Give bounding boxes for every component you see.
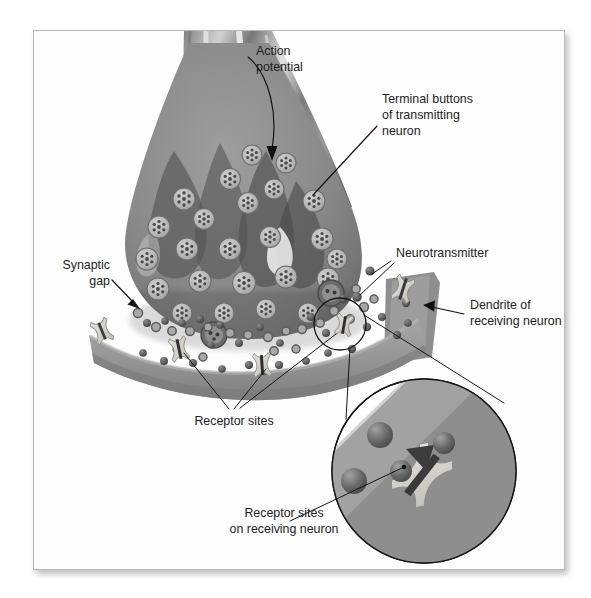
neurotransmitter <box>196 315 204 323</box>
label-inset-receptor-line2: on receiving neuron <box>230 522 339 536</box>
neurotransmitter <box>264 333 273 342</box>
vesicle <box>256 299 276 319</box>
vesicle <box>136 248 158 270</box>
neurotransmitter <box>168 327 176 335</box>
neurotransmitter <box>244 331 252 339</box>
neurotransmitter <box>292 345 300 353</box>
neurotransmitter <box>298 325 307 334</box>
neurotransmitter <box>270 347 278 355</box>
vesicle <box>298 303 318 323</box>
neurotransmitter-labeled <box>365 266 374 275</box>
vesicle <box>276 153 296 173</box>
synaptic-gap-arrowhead <box>128 299 141 309</box>
vesicle <box>214 303 234 323</box>
vesicle <box>148 216 170 238</box>
neurotransmitter <box>316 319 324 327</box>
neurotransmitter <box>370 295 378 303</box>
neurotransmitter <box>245 361 253 369</box>
neurotransmitter <box>275 361 283 369</box>
neurotransmitter <box>352 285 360 293</box>
label-inset-receptor-line1: Receptor sites <box>244 506 323 520</box>
neurotransmitter <box>216 321 224 329</box>
neurotransmitter <box>226 329 235 338</box>
neurotransmitter-labeled <box>352 292 362 302</box>
vesicle <box>233 272 256 295</box>
transmitting-neuron <box>114 31 374 351</box>
vesicle <box>238 193 259 214</box>
label-action-potential-line2: potential <box>256 60 303 74</box>
synapse-illustration: Action potential Terminal buttons of tra… <box>34 31 562 567</box>
neurotransmitter <box>133 308 142 317</box>
neurotransmitter <box>143 319 151 327</box>
neurotransmitter <box>363 323 371 331</box>
neurotransmitter <box>152 323 161 332</box>
inset-neurotransmitter-bound <box>390 460 412 482</box>
neurotransmitter <box>276 339 284 347</box>
label-dendrite-line1: Dendrite of <box>470 298 531 312</box>
vesicle <box>194 209 215 230</box>
neurotransmitter <box>160 357 168 365</box>
vesicle <box>220 169 241 190</box>
label-terminal-buttons-line2: of transmitting <box>382 108 460 122</box>
neurotransmitter <box>360 303 369 312</box>
figure-frame: Action potential Terminal buttons of tra… <box>33 30 565 570</box>
neurotransmitter <box>207 341 214 348</box>
vesicle <box>260 227 281 248</box>
neurotransmitter <box>139 349 147 357</box>
label-terminal-buttons-line3: neuron <box>382 124 421 138</box>
neurotransmitter <box>178 319 186 327</box>
neurotransmitter <box>378 313 386 321</box>
neurotransmitter <box>235 339 243 347</box>
inset-receptor-leader-dot <box>402 465 406 469</box>
label-synaptic-gap-line1: Synaptic <box>62 258 110 272</box>
inset-neurotransmitter <box>341 468 367 494</box>
neurotransmitter-leader-1 <box>372 261 391 274</box>
vesicle <box>242 145 262 165</box>
inset-neurotransmitter <box>367 422 393 448</box>
label-receptor-sites: Receptor sites <box>194 414 273 428</box>
neurotransmitter <box>322 329 330 337</box>
label-terminal-buttons-line1: Terminal buttons <box>382 92 473 106</box>
figure-page: Action potential Terminal buttons of tra… <box>0 0 591 598</box>
inset-neurotransmitter-bound <box>433 432 455 454</box>
neurotransmitter <box>256 323 264 331</box>
neurotransmitter <box>324 349 332 357</box>
neurotransmitter <box>282 327 290 335</box>
vesicle <box>147 278 169 300</box>
vesicle <box>189 270 211 292</box>
neurotransmitter <box>218 365 226 373</box>
docked-vesicle <box>318 280 344 306</box>
vesicle <box>173 188 195 210</box>
synaptic-gap-leader <box>112 280 134 303</box>
vesicle <box>327 249 347 269</box>
neurotransmitter <box>161 317 169 325</box>
vesicle <box>264 179 284 199</box>
neurotransmitter <box>204 323 212 331</box>
neurotransmitter <box>186 327 195 336</box>
label-synaptic-gap-line2: gap <box>89 274 110 288</box>
label-neurotransmitter: Neurotransmitter <box>396 246 488 260</box>
neurotransmitter <box>330 307 339 316</box>
label-action-potential-line1: Action <box>256 44 291 58</box>
vesicle <box>219 238 241 260</box>
vesicle <box>275 266 297 288</box>
vesicle <box>311 228 333 250</box>
label-dendrite-line2: receiving neuron <box>470 314 562 328</box>
neurotransmitter <box>404 319 412 327</box>
vesicle <box>176 238 198 260</box>
neurotransmitter <box>199 353 207 361</box>
neurotransmitter <box>302 357 310 365</box>
